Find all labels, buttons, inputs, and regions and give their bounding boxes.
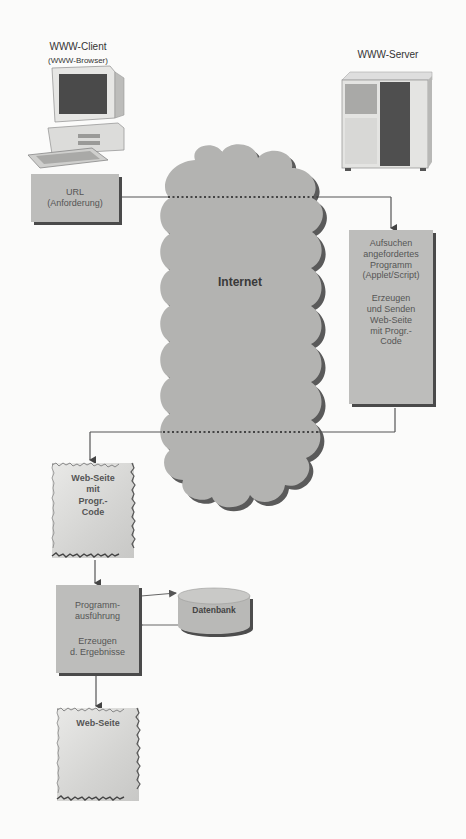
server-title: WWW-Server — [340, 49, 436, 61]
webpage-code-line: Code — [82, 507, 105, 518]
internet-cloud — [160, 144, 327, 511]
webpage-code-line: Progr.- — [78, 496, 107, 507]
webpage-result: Web-Seite — [57, 708, 139, 801]
url-request-box: URL (Anforderung) — [31, 174, 119, 222]
server-step-line: Web-Seite — [370, 315, 412, 326]
execution-line: Programm- — [75, 600, 120, 611]
server-step-line: Code — [380, 336, 402, 347]
server-processing-box: Aufsuchen angefordertes Programm (Applet… — [349, 230, 433, 404]
server-step-line: und Senden — [367, 304, 416, 315]
desktop-computer-icon — [28, 66, 124, 168]
execution-to-db-arrow — [141, 593, 176, 596]
webpage-code-line: Web-Seite — [71, 473, 114, 484]
server-tower-icon — [342, 72, 432, 171]
webpage-code-line: mit — [86, 484, 100, 495]
server-step-line: angefordertes — [363, 249, 419, 260]
database-label: Datenbank — [178, 605, 250, 615]
url-sublabel: (Anforderung) — [47, 198, 103, 209]
webpage-with-code: Web-Seite mit Progr.- Code — [52, 463, 134, 558]
execution-line: ausführung — [75, 611, 120, 622]
client-subtitle: (WWW-Browser) — [30, 56, 126, 65]
client-title: WWW-Client — [30, 41, 126, 53]
url-label: URL — [66, 187, 84, 198]
program-execution-box: Programm- ausführung Erzeugen d. Ergebni… — [56, 585, 139, 673]
execution-line: Erzeugen — [78, 636, 117, 647]
server-step-line: Aufsuchen — [370, 238, 413, 249]
server-step-line: Erzeugen — [372, 293, 411, 304]
webpage-result-label: Web-Seite — [76, 718, 119, 729]
execution-line: d. Ergebnisse — [70, 647, 125, 658]
internet-label: Internet — [200, 275, 280, 289]
server-step-line: (Applet/Script) — [362, 270, 419, 281]
server-step-line: Programm — [370, 260, 412, 271]
server-step-line: mit Progr.- — [370, 326, 412, 337]
